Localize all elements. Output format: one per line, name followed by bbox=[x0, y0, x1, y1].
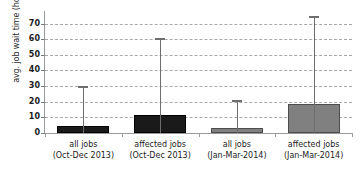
error-bar-stem bbox=[83, 86, 84, 133]
x-category-label: all jobs(Jan-Mar-2014) bbox=[199, 139, 276, 161]
y-tick-label: 30 bbox=[20, 82, 40, 90]
error-bar-stem bbox=[314, 16, 315, 133]
y-tick-label: 60 bbox=[20, 35, 40, 43]
x-category-label-line2: (Jan-Mar-2014) bbox=[275, 150, 352, 161]
error-bar-stem bbox=[237, 100, 238, 133]
y-tick-mark bbox=[41, 70, 45, 71]
x-category-label-line2: (Oct-Dec 2013) bbox=[122, 150, 199, 161]
y-tick-label: 70 bbox=[20, 20, 40, 28]
x-tick-mark bbox=[45, 133, 46, 137]
gridline bbox=[45, 24, 352, 25]
error-bar-cap bbox=[309, 16, 319, 18]
error-bar-cap bbox=[78, 86, 88, 88]
x-category-label-line1: all jobs bbox=[69, 140, 97, 149]
y-tick-mark bbox=[41, 86, 45, 87]
y-tick-mark bbox=[41, 117, 45, 118]
x-category-label-line1: all jobs bbox=[223, 140, 251, 149]
x-category-label-line1: affected jobs bbox=[134, 140, 186, 149]
y-tick-mark bbox=[41, 55, 45, 56]
error-bar-cap bbox=[155, 38, 165, 40]
y-tick-label: 20 bbox=[20, 98, 40, 106]
gridline bbox=[45, 55, 352, 56]
x-category-label: affected jobs(Oct-Dec 2013) bbox=[122, 139, 199, 161]
x-category-label: all jobs(Oct-Dec 2013) bbox=[45, 139, 122, 161]
x-tick-mark bbox=[352, 133, 353, 137]
x-tick-mark bbox=[199, 133, 200, 137]
x-tick-mark bbox=[122, 133, 123, 137]
gridline bbox=[45, 86, 352, 87]
x-category-label-line2: (Oct-Dec 2013) bbox=[45, 150, 122, 161]
x-category-label-line2: (Jan-Mar-2014) bbox=[199, 150, 276, 161]
y-axis-tick-labels: 010203040506070 bbox=[20, 0, 40, 174]
y-tick-label: 40 bbox=[20, 66, 40, 74]
x-category-label-line1: affected jobs bbox=[288, 140, 340, 149]
error-bar-cap bbox=[232, 100, 242, 102]
y-tick-mark bbox=[41, 24, 45, 25]
x-category-label: affected jobs(Jan-Mar-2014) bbox=[275, 139, 352, 161]
x-tick-mark bbox=[275, 133, 276, 137]
gridline bbox=[45, 102, 352, 103]
error-bar-stem bbox=[160, 38, 161, 133]
y-tick-label: 10 bbox=[20, 113, 40, 121]
gridline bbox=[45, 39, 352, 40]
y-tick-label: 50 bbox=[20, 51, 40, 59]
bar-chart: avg. job wait time (hours) 0102030405060… bbox=[0, 0, 364, 174]
gridline bbox=[45, 70, 352, 71]
y-tick-mark bbox=[41, 102, 45, 103]
plot-area bbox=[45, 11, 352, 133]
y-tick-label: 0 bbox=[20, 129, 40, 137]
y-tick-mark bbox=[41, 39, 45, 40]
